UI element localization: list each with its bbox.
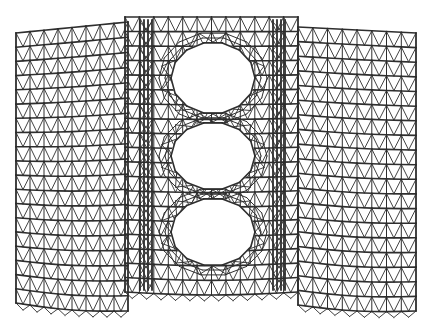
right-wing-panel bbox=[298, 27, 416, 318]
circular-openings bbox=[171, 42, 255, 266]
left-wing-panel bbox=[16, 22, 128, 317]
lattice-figure bbox=[0, 0, 430, 326]
space-frame-drawing bbox=[0, 0, 430, 326]
